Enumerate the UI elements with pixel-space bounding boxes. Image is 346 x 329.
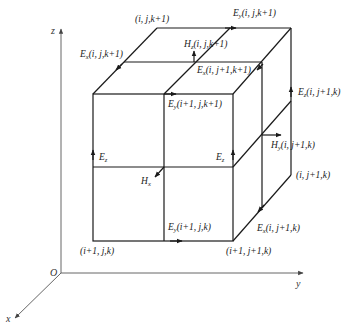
x-axis-label: x	[5, 313, 11, 324]
label-ex-top-left: Ex(i, j,k+1)	[79, 49, 123, 60]
label-ez-front-right: Ez	[215, 152, 225, 163]
ex-top-left-arrow	[116, 64, 122, 70]
top-mid-diagonal	[164, 28, 230, 94]
origin-label: O	[50, 267, 57, 278]
label-hy-right: Hy(i, j+1,k)	[270, 140, 315, 151]
label-hx-front: Hx	[140, 176, 151, 187]
label-ey-front-bottom: Ey(i+1, j,k)	[167, 222, 211, 233]
node-label-top: (i, j,k+1)	[135, 14, 169, 25]
node-label-back-right: (i, j+1,k)	[296, 170, 330, 181]
coordinate-axes: z y x O	[5, 25, 303, 324]
y-axis-label: y	[295, 278, 301, 289]
label-hz-top: Hz(i, j,k+1)	[183, 39, 228, 50]
label-ez-back-right: Ez(i, j+1,k)	[297, 87, 340, 98]
yee-cell-diagram: z y x O (i, j,k+1	[0, 0, 346, 329]
label-ex-top-right: Ex(i, j+1,k+1)	[196, 65, 251, 76]
field-labels: Ey(i, j,k+1) Ex(i, j,k+1) Hz(i, j,k+1) E…	[79, 8, 340, 234]
label-ez-front-left: Ez	[98, 152, 108, 163]
top-left-diagonal	[93, 28, 157, 94]
label-ey-front-top: Ey(i+1, j,k+1)	[167, 99, 222, 110]
node-label-front-bottom-left: (i+1, j,k)	[80, 246, 114, 257]
ex-bottom-right-arrow	[258, 205, 264, 212]
z-axis-label: z	[50, 25, 55, 36]
x-axis	[15, 273, 61, 318]
label-ex-bottom-right: Ex(i, j+1,k)	[256, 223, 300, 234]
label-ey-top-back: Ey(i, j,k+1)	[232, 8, 276, 19]
node-label-front-bottom-right: (i+1, j+1,k)	[226, 246, 271, 257]
hx-front-arrow	[155, 167, 164, 177]
